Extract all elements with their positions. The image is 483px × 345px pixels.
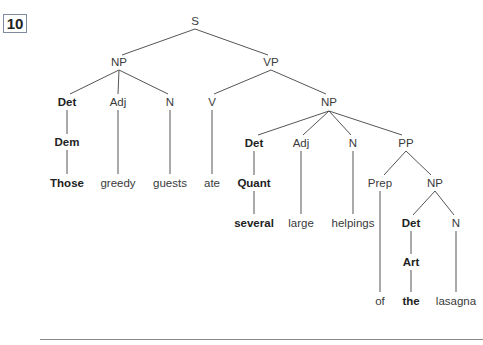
- node-Adj-subject: Adj: [110, 96, 127, 108]
- word-large: large: [288, 217, 314, 229]
- node-N-object: N: [349, 137, 357, 149]
- node-VP: VP: [263, 56, 279, 68]
- node-NP-object: NP: [321, 96, 337, 108]
- word-ate: ate: [204, 177, 220, 189]
- node-S: S: [191, 15, 199, 27]
- word-several: several: [234, 217, 274, 229]
- node-Adj-object: Adj: [293, 137, 310, 149]
- word-guests: guests: [153, 177, 187, 189]
- word-Those: Those: [50, 177, 84, 189]
- node-Art: Art: [403, 256, 420, 268]
- node-V: V: [208, 96, 216, 108]
- node-PP: PP: [398, 137, 414, 149]
- node-Quant: Quant: [237, 177, 270, 189]
- node-Det-object: Det: [245, 137, 264, 149]
- bottom-rule: [40, 339, 483, 340]
- tree-edges: [67, 29, 456, 292]
- node-NP-pp: NP: [427, 177, 443, 189]
- word-the: the: [402, 295, 419, 307]
- node-Det-pp: Det: [402, 217, 421, 229]
- word-of: of: [375, 295, 385, 307]
- word-helpings: helpings: [332, 217, 375, 229]
- node-N-pp: N: [452, 217, 460, 229]
- node-Det-subject: Det: [58, 96, 77, 108]
- node-N-subject: N: [166, 96, 174, 108]
- node-Dem: Dem: [55, 136, 80, 148]
- word-lasagna: lasagna: [436, 295, 477, 307]
- word-greedy: greedy: [100, 177, 135, 189]
- syntax-tree: S NP VP Det Adj N V NP Dem Det Adj N PP …: [0, 0, 483, 345]
- node-NP-subject: NP: [111, 56, 127, 68]
- node-Prep: Prep: [368, 177, 392, 189]
